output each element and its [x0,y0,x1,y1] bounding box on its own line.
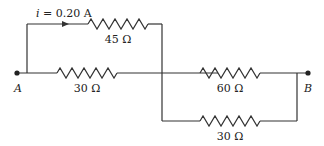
resistor-30-bottom [200,116,260,126]
circuit-svg: i = 0.20 A 45 Ω 30 Ω 60 Ω 30 Ω A B [0,0,324,146]
current-label: i = 0.20 A [36,7,93,20]
resistor-45-label: 45 Ω [105,33,132,46]
circuit-diagram: i = 0.20 A 45 Ω 30 Ω 60 Ω 30 Ω A B [0,0,324,146]
node-b-label: B [303,82,312,95]
resistor-30-bottom-label: 30 Ω [217,130,244,143]
resistor-60-label: 60 Ω [217,82,244,95]
current-arrow-icon [62,21,69,27]
terminal-a-dot [14,70,19,75]
resistor-30-left-label: 30 Ω [74,82,101,95]
terminal-b-dot [305,70,310,75]
resistor-30-left [57,68,117,78]
node-a-label: A [13,82,22,95]
resistor-45 [88,19,148,29]
